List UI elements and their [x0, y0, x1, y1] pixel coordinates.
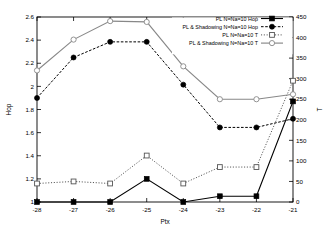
data-point: [217, 165, 222, 170]
y2-tick-label: 300: [296, 75, 307, 82]
y-tick-label: 2.4: [25, 36, 34, 43]
data-point: [254, 165, 259, 170]
chart-canvas: -28-27-26-25-24-23-22-2111.21.41.61.822.…: [0, 0, 334, 244]
data-point: [108, 39, 113, 44]
y2-tick-label: 450: [296, 13, 307, 20]
data-point: [35, 181, 40, 186]
chart-figure: -28-27-26-25-24-23-22-2111.21.41.61.822.…: [0, 0, 334, 244]
data-point: [144, 176, 149, 181]
y2-tick-label: 250: [296, 95, 307, 102]
x-axis-title: Ptx: [160, 218, 170, 225]
y-tick-label: 2.6: [25, 13, 34, 20]
y2-tick-label: 400: [296, 34, 307, 41]
y2-tick-label: 200: [296, 116, 307, 123]
data-point: [291, 116, 296, 121]
data-point: [144, 39, 149, 44]
y2-axis-title: T: [316, 107, 323, 111]
data-point: [181, 200, 186, 205]
data-point: [254, 125, 259, 130]
x-tick-label: -22: [252, 206, 262, 213]
data-point: [35, 200, 40, 205]
y2-tick-label: 0: [296, 198, 300, 205]
data-point: [254, 97, 259, 102]
data-point: [71, 55, 76, 60]
series-0: [35, 99, 296, 204]
legend-marker-3: [269, 41, 274, 46]
legend-label-1: PL & Shadowing N=Na=10 Hop: [182, 24, 258, 30]
y-tick-label: 1.4: [25, 152, 34, 159]
data-point: [71, 200, 76, 205]
data-point: [291, 78, 296, 83]
data-point: [217, 194, 222, 199]
y-tick-label: 1.6: [25, 129, 34, 136]
data-point: [290, 92, 295, 97]
x-tick-label: -23: [215, 206, 225, 213]
data-point: [71, 37, 76, 42]
series-line-0: [37, 101, 293, 202]
data-point: [34, 68, 39, 73]
y-tick-label: 1.8: [25, 106, 34, 113]
chart-svg: -28-27-26-25-24-23-22-2111.21.41.61.822.…: [0, 0, 334, 244]
y-tick-label: 1: [31, 198, 35, 205]
data-point: [217, 125, 222, 130]
y2-tick-label: 50: [296, 178, 303, 185]
legend-label-3: PL & Shadowing N=Na=10 T: [189, 40, 259, 46]
data-point: [181, 64, 186, 69]
legend-marker-2: [270, 33, 275, 38]
data-point: [144, 19, 149, 24]
y2-tick-label: 150: [296, 137, 307, 144]
legend-label-0: PL N=Na=10 Hop: [216, 16, 258, 22]
legend: PL N=Na=10 HopPL & Shadowing N=Na=10 Hop…: [172, 16, 293, 55]
x-tick-label: -24: [179, 206, 189, 213]
y-tick-label: 1.2: [25, 175, 34, 182]
data-point: [35, 95, 40, 100]
data-point: [217, 97, 222, 102]
legend-marker-1: [270, 24, 275, 29]
data-point: [181, 82, 186, 87]
data-point: [144, 153, 149, 158]
x-tick-label: -25: [142, 206, 152, 213]
data-point: [71, 179, 76, 184]
x-tick-label: -28: [33, 206, 43, 213]
data-point: [108, 181, 113, 186]
y-tick-label: 2: [31, 83, 35, 90]
x-tick-label: -26: [106, 206, 116, 213]
data-point: [291, 99, 296, 104]
data-point: [108, 19, 113, 24]
data-point: [108, 200, 113, 205]
data-point: [181, 181, 186, 186]
legend-marker-0: [270, 16, 275, 21]
x-tick-label: -21: [289, 206, 299, 213]
y-axis-title: Hop: [5, 103, 13, 115]
legend-label-2: PL N=Na=10 T: [222, 32, 258, 38]
series-2: [35, 78, 296, 186]
series-line-1: [37, 42, 293, 128]
y-tick-label: 2.2: [25, 59, 34, 66]
x-tick-label: -27: [69, 206, 79, 213]
y2-tick-label: 350: [296, 54, 307, 61]
data-point: [254, 194, 259, 199]
y2-tick-label: 100: [296, 157, 307, 164]
